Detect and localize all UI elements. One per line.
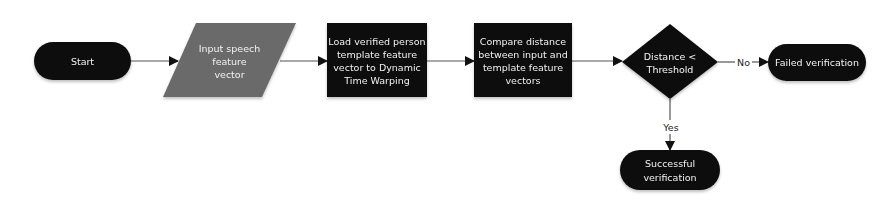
node-start-label: Start xyxy=(71,56,94,67)
node-start: Start xyxy=(34,42,131,80)
node-success-line-2: verification xyxy=(643,172,696,183)
node-compare-line-3: template feature xyxy=(483,62,563,73)
node-failed: Failed verification xyxy=(768,44,866,81)
node-decision: Distance < Threshold xyxy=(622,24,718,99)
node-decision-line-1: Distance < xyxy=(644,51,697,62)
process-shape xyxy=(327,23,427,97)
node-load-line-3: vector to Dynamic xyxy=(333,62,421,73)
flowchart-diagram: No Yes Start Input speech feature vector… xyxy=(0,0,894,201)
decision-diamond-shape xyxy=(622,24,718,99)
edge-label-no: No xyxy=(737,57,750,68)
node-compare-line-1: Compare distance xyxy=(480,36,567,47)
node-input-line-2: feature xyxy=(212,56,246,67)
node-compare: Compare distance between input and templ… xyxy=(474,23,572,97)
node-input-line-1: Input speech xyxy=(199,43,261,54)
node-load-line-2: template feature xyxy=(337,49,417,60)
node-load: Load verified person template feature ve… xyxy=(327,23,427,97)
node-compare-line-2: between input and xyxy=(478,49,567,60)
node-success: Successful verification xyxy=(620,150,720,190)
node-decision-line-2: Threshold xyxy=(646,64,694,75)
node-load-line-4: Time Warping xyxy=(343,75,410,86)
node-input: Input speech feature vector xyxy=(163,23,296,97)
edge-label-yes: Yes xyxy=(662,122,678,133)
process-shape xyxy=(474,23,572,97)
edge-decision-no: No xyxy=(718,57,768,68)
edge-decision-yes: Yes xyxy=(662,99,678,150)
node-input-line-3: vector xyxy=(214,69,244,80)
node-failed-label: Failed verification xyxy=(775,57,859,68)
node-success-line-1: Successful xyxy=(645,158,695,169)
terminal-shape xyxy=(620,150,720,190)
node-load-line-1: Load verified person xyxy=(328,36,425,47)
node-compare-line-4: vectors xyxy=(505,75,540,86)
